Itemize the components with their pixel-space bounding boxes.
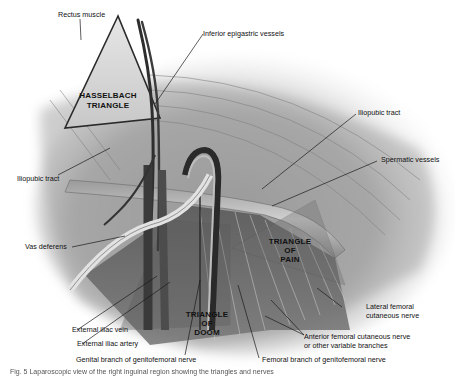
svg-text:OF: OF	[201, 319, 213, 328]
label-iliopubic-tract-right: Iliopubic tract	[358, 108, 400, 117]
label-lateral-femoral-1: Lateral femoral	[366, 302, 414, 311]
svg-text:OF: OF	[284, 246, 296, 255]
label-iliopubic-tract-left: Iliopubic tract	[17, 174, 59, 183]
anatomy-illustration: HASSELBACH TRIANGLE TRIANGLE OF PAIN TRI…	[0, 0, 455, 377]
svg-text:HASSELBACH: HASSELBACH	[79, 91, 137, 100]
label-genital-branch: Genital branch of genitofemoral nerve	[76, 355, 196, 364]
label-anterior-femoral-2: or other variable branches	[304, 341, 388, 350]
label-external-iliac-artery: External iliac artery	[77, 339, 139, 348]
figure-caption: Fig. 5 Laparoscopic view of the right in…	[10, 368, 450, 377]
label-vas-deferens: Vas deferens	[25, 242, 67, 251]
svg-text:TRIANGLE: TRIANGLE	[87, 101, 130, 110]
svg-text:TRIANGLE: TRIANGLE	[269, 237, 312, 246]
svg-text:PAIN: PAIN	[280, 255, 299, 264]
label-anterior-femoral-1: Anterior femoral cutaneous nerve	[304, 332, 410, 341]
label-lateral-femoral-2: cutaneous nerve	[366, 311, 419, 320]
svg-text:DOOM: DOOM	[194, 328, 220, 337]
label-spermatic-vessels: Spermatic vessels	[381, 155, 440, 164]
label-femoral-branch: Femoral branch of genitofemoral nerve	[262, 355, 386, 364]
label-rectus-muscle: Rectus muscle	[58, 10, 105, 19]
hasselbach-label: HASSELBACH TRIANGLE	[79, 91, 137, 110]
label-external-iliac-vein: External iliac vein	[72, 325, 128, 334]
label-inferior-epigastric: Inferior epigastric vessels	[203, 29, 284, 38]
